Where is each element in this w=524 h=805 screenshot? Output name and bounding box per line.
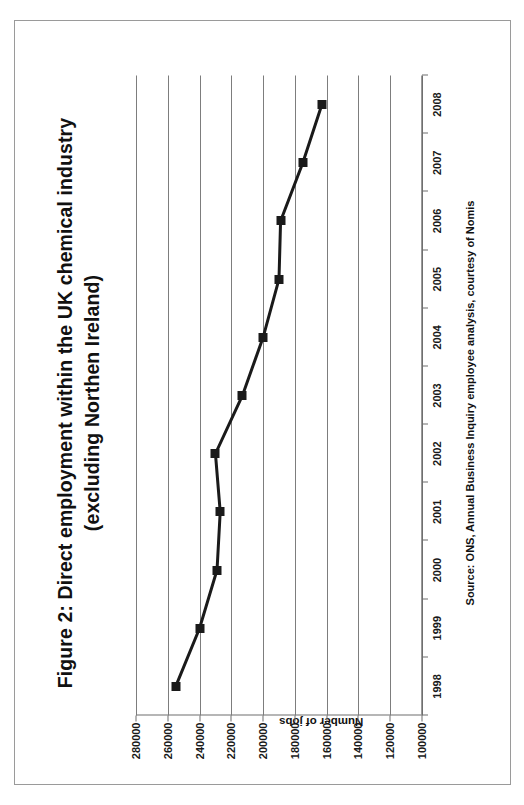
plot-area: Number of jobs 2800002600002400002200002… xyxy=(136,75,422,715)
page-title: Figure 2: Direct employment within the U… xyxy=(52,30,106,775)
data-point-marker xyxy=(237,391,246,400)
chart-title-line-1: Figure 2: Direct employment within the U… xyxy=(54,117,76,687)
value-axis-label: 200000 xyxy=(257,722,269,759)
value-axis-tick xyxy=(135,715,136,721)
value-axis-tick xyxy=(199,715,200,721)
data-point-marker xyxy=(171,681,180,690)
category-axis-label: 2004 xyxy=(431,325,443,349)
value-axis-label: 260000 xyxy=(161,722,173,759)
value-axis-label: 100000 xyxy=(416,722,428,759)
category-axis-tick xyxy=(422,74,428,75)
category-axis-tick xyxy=(422,714,428,715)
value-axis-label: 160000 xyxy=(320,722,332,759)
rotated-chart-container: Figure 2: Direct employment within the U… xyxy=(48,30,478,775)
figure-frame: Figure 2: Direct employment within the U… xyxy=(14,20,511,785)
category-axis-tick xyxy=(422,249,428,250)
data-point-marker xyxy=(317,100,326,109)
value-axis-tick xyxy=(326,715,327,721)
category-axis-label: 2002 xyxy=(431,441,443,465)
value-axis-label: 180000 xyxy=(288,722,300,759)
data-point-marker xyxy=(298,158,307,167)
data-point-marker xyxy=(258,332,267,341)
chart-title-line-2: (excluding Northen Ireland) xyxy=(79,30,106,775)
category-axis-label: 1999 xyxy=(431,615,443,639)
category-axis-label: 2001 xyxy=(431,499,443,523)
value-axis-label: 280000 xyxy=(130,722,142,759)
value-axis-tick xyxy=(389,715,390,721)
category-axis-tick xyxy=(422,365,428,366)
data-point-marker xyxy=(212,565,221,574)
category-axis-tick xyxy=(422,132,428,133)
value-axis-label: 240000 xyxy=(193,722,205,759)
category-axis-tick xyxy=(422,423,428,424)
value-axis-tick xyxy=(421,715,422,721)
category-axis-label: 2008 xyxy=(431,92,443,116)
value-axis-label: 140000 xyxy=(352,722,364,759)
category-axis-tick xyxy=(422,656,428,657)
category-axis-tick xyxy=(422,481,428,482)
category-axis-label: 2005 xyxy=(431,266,443,290)
category-axis-label: 2006 xyxy=(431,208,443,232)
category-axis-tick xyxy=(422,539,428,540)
data-point-marker xyxy=(210,449,219,458)
value-axis-tick xyxy=(262,715,263,721)
category-axis-tick xyxy=(422,307,428,308)
data-point-marker xyxy=(215,507,224,516)
value-axis-tick xyxy=(357,715,358,721)
value-axis-label: 220000 xyxy=(225,722,237,759)
category-axis-label: 2003 xyxy=(431,383,443,407)
category-axis-label: 1998 xyxy=(431,674,443,698)
value-axis-tick xyxy=(294,715,295,721)
source-note: Source: ONS, Annual Business Inquiry emp… xyxy=(464,30,476,775)
value-axis-tick xyxy=(167,715,168,721)
data-point-marker xyxy=(276,216,285,225)
category-axis-label: 2007 xyxy=(431,150,443,174)
value-axis-label: 120000 xyxy=(384,722,396,759)
data-point-marker xyxy=(195,623,204,632)
value-axis-tick xyxy=(230,715,231,721)
category-axis-tick xyxy=(422,598,428,599)
figure-page: Figure 2: Direct employment within the U… xyxy=(0,0,524,805)
category-axis-tick xyxy=(422,190,428,191)
category-axis-label: 2000 xyxy=(431,557,443,581)
series-line xyxy=(136,75,422,715)
data-point-marker xyxy=(274,274,283,283)
